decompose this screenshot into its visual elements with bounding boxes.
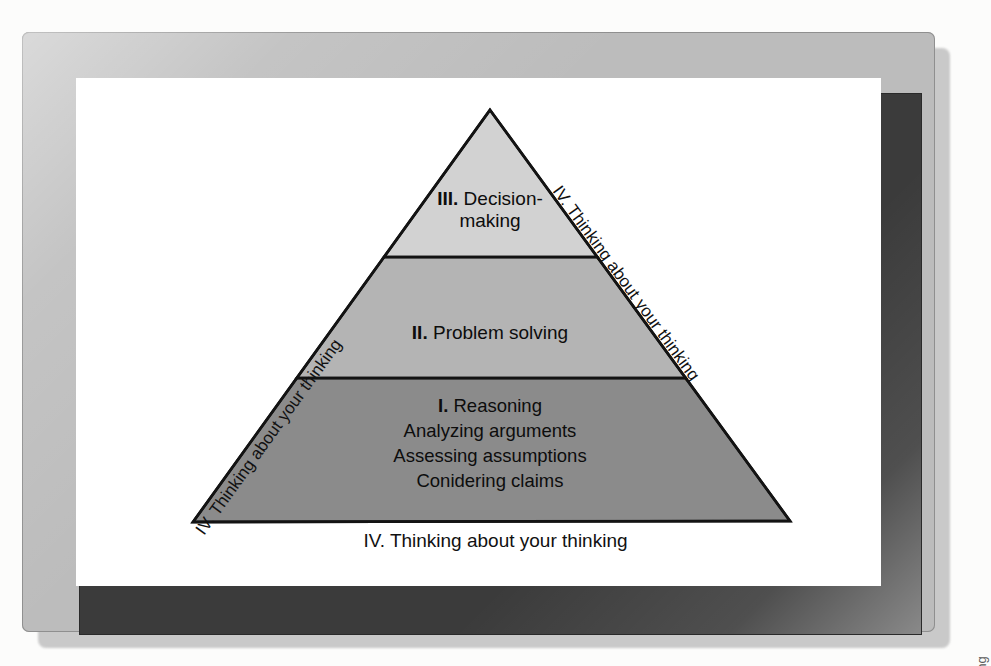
tier-title-decision: Decision- — [458, 188, 542, 209]
tier-detail-analyzing-arguments: Analyzing arguments — [404, 420, 577, 441]
tier-detail-assessing-assumptions: Assessing assumptions — [393, 445, 586, 466]
tier-detail-conidering-claims: Conidering claims — [416, 470, 563, 491]
copyright-notice: © 2014 Cengage Learning — [974, 656, 989, 666]
tier-title-making: making — [459, 210, 520, 231]
tier-label-reasoning: I. Reasoning Analyzing arguments Assessi… — [330, 394, 650, 494]
tier-label-problem-solving: II. Problem solving — [355, 322, 625, 344]
tier-numeral-i: I. — [438, 395, 448, 416]
tier-title-problem-solving: Problem solving — [428, 322, 568, 343]
page-background: III. Decision- making II. Problem solvin… — [0, 0, 991, 666]
tier-title-reasoning: Reasoning — [448, 395, 542, 416]
tier-numeral-iii: III. — [437, 188, 458, 209]
tier-numeral-ii: II. — [412, 322, 428, 343]
pyramid-base-caption: IV. Thinking about your thinking — [0, 530, 991, 552]
